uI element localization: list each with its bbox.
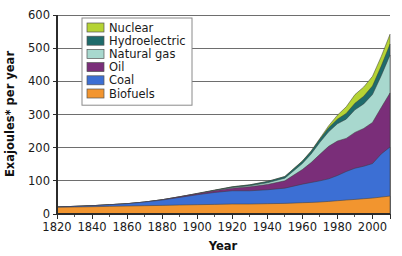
legend-label-hydroelectric: Hydroelectric [109, 34, 186, 48]
y-tick-label-0: 0 [43, 207, 50, 221]
x-tick-label-1940: 1940 [253, 220, 282, 234]
y-tick-label-400: 400 [28, 74, 50, 88]
legend-swatch-nuclear [87, 23, 104, 32]
x-tick-label-1880: 1880 [148, 220, 177, 234]
x-axis-ticks: 1820184018601880190019201940196019802000 [42, 214, 390, 234]
y-tick-label-300: 300 [28, 108, 50, 122]
x-tick-label-1860: 1860 [112, 220, 141, 234]
legend: NuclearHydroelectricNatural gasOilCoalBi… [82, 18, 192, 105]
legend-label-oil: Oil [109, 60, 124, 74]
legend-label-biofuels: Biofuels [109, 87, 155, 101]
x-tick-label-1900: 1900 [183, 220, 212, 234]
y-axis-ticks: 0100200300400500600 [28, 8, 57, 221]
y-tick-label-200: 200 [28, 141, 50, 155]
x-tick-label-1980: 1980 [323, 220, 352, 234]
x-tick-label-1840: 1840 [77, 220, 106, 234]
y-tick-label-100: 100 [28, 174, 50, 188]
legend-swatch-natural-gas [87, 49, 104, 58]
chart-canvas: 1820184018601880190019201940196019802000… [0, 0, 402, 256]
y-tick-label-600: 600 [28, 8, 50, 22]
energy-consumption-chart: 1820184018601880190019201940196019802000… [0, 0, 402, 256]
x-axis-title: Year [208, 239, 238, 253]
y-tick-label-500: 500 [28, 41, 50, 55]
x-tick-label-1920: 1920 [218, 220, 247, 234]
legend-swatch-biofuels [87, 89, 104, 98]
legend-label-natural-gas: Natural gas [109, 47, 175, 61]
legend-swatch-oil [87, 63, 104, 72]
x-tick-label-2000: 2000 [358, 220, 387, 234]
legend-label-nuclear: Nuclear [109, 21, 154, 35]
legend-label-coal: Coal [109, 73, 134, 87]
x-tick-label-1820: 1820 [42, 220, 71, 234]
x-tick-label-1960: 1960 [288, 220, 317, 234]
y-axis-title: Exajoules* per year [3, 51, 17, 177]
legend-swatch-coal [87, 76, 104, 85]
legend-swatch-hydroelectric [87, 36, 104, 45]
